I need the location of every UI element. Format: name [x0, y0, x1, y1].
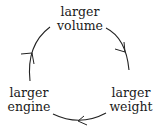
- node-larger-volume: larger volume: [52, 5, 108, 33]
- node-label-line2: engine: [4, 100, 54, 114]
- node-larger-engine: larger engine: [4, 86, 54, 114]
- node-label-line1: larger: [52, 5, 108, 19]
- arrow-engine-to-volume: [21, 27, 50, 81]
- node-label-line1: larger: [4, 86, 54, 100]
- node-larger-weight: larger weight: [106, 86, 156, 114]
- node-label-line2: weight: [106, 100, 156, 114]
- node-label-line2: volume: [52, 19, 108, 33]
- arrow-volume-to-weight: [106, 28, 129, 70]
- cycle-diagram: larger volume larger weight larger engin…: [0, 0, 158, 132]
- node-label-line1: larger: [106, 86, 156, 100]
- arrow-weight-to-engine: [53, 113, 106, 125]
